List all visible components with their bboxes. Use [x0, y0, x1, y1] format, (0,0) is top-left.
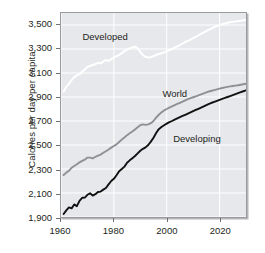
y-tick-mark	[56, 97, 60, 98]
y-tick-mark	[56, 24, 60, 25]
x-tick-label: 2000	[156, 225, 177, 236]
y-tick-mark	[56, 194, 60, 195]
y-tick-mark	[56, 170, 60, 171]
x-tick-mark	[60, 218, 61, 222]
y-tick-mark	[56, 145, 60, 146]
x-tick-mark	[167, 218, 168, 222]
y-tick-mark	[56, 121, 60, 122]
x-axis-tick-labels: 1960198020002020	[0, 0, 265, 253]
chart-figure: Calories per day per capita 1,9002,1002,…	[0, 0, 265, 253]
x-tick-label: 1980	[103, 225, 124, 236]
x-tick-mark	[113, 218, 114, 222]
x-tick-label: 2020	[210, 225, 231, 236]
x-tick-label: 1960	[49, 225, 70, 236]
x-tick-mark	[220, 218, 221, 222]
y-tick-mark	[56, 48, 60, 49]
y-tick-mark	[56, 218, 60, 219]
y-tick-mark	[56, 73, 60, 74]
